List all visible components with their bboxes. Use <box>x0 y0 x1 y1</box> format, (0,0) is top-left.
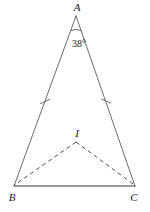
vertex-label-a: A <box>73 1 81 13</box>
geometry-canvas: A B C I 38° <box>0 0 150 212</box>
segment-ic-dashed <box>76 142 135 185</box>
geometry-figure: A B C I 38° <box>0 0 150 212</box>
angle-arc-a <box>71 29 82 30</box>
segment-ab <box>14 16 76 186</box>
vertex-label-c: C <box>130 191 138 203</box>
angle-label-38: 38° <box>72 38 86 49</box>
segment-ib-dashed <box>15 142 77 185</box>
vertex-label-b: B <box>9 191 16 203</box>
vertex-label-i: I <box>74 127 80 139</box>
